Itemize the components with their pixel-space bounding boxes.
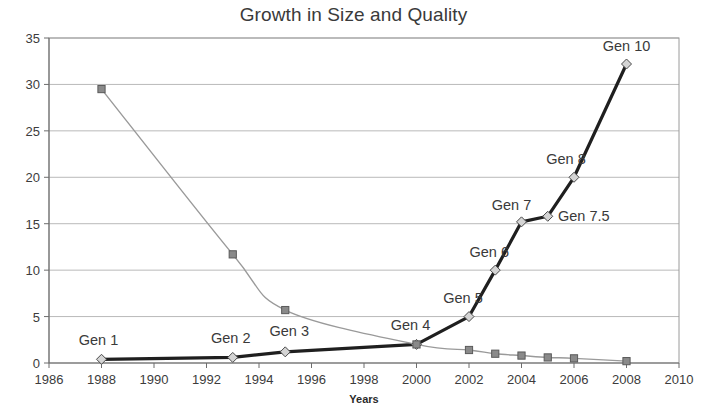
point-label: Gen 6 <box>470 244 510 260</box>
chart-container: Growth in Size and Quality 1986198819901… <box>0 0 707 420</box>
data-point-marker <box>570 355 577 362</box>
point-label: Gen 7 <box>492 197 532 213</box>
plot-frame-group <box>49 38 679 363</box>
x-axis-tick-label: 1990 <box>140 372 169 387</box>
x-axis-group: 1986198819901992199419961998200020022004… <box>35 363 694 387</box>
series-line-1 <box>102 89 627 361</box>
y-axis-tick-label: 20 <box>26 170 40 185</box>
x-axis-title: Years <box>349 393 378 405</box>
x-axis-tick-label: 1998 <box>350 372 379 387</box>
x-axis-tick-label: 1988 <box>87 372 116 387</box>
x-axis-tick-label: 2010 <box>665 372 694 387</box>
data-point-marker <box>492 350 499 357</box>
x-axis-tick-label: 2000 <box>402 372 431 387</box>
data-point-marker <box>623 358 630 365</box>
gridlines-group <box>49 38 679 317</box>
y-axis-tick-label: 5 <box>33 310 40 325</box>
point-label: Gen 10 <box>603 38 651 54</box>
chart-canvas: 1986198819901992199419961998200020022004… <box>0 0 707 420</box>
x-axis-tick-label: 1996 <box>297 372 326 387</box>
data-point-marker <box>228 352 238 362</box>
y-axis-tick-label: 30 <box>26 77 40 92</box>
point-label: Gen 5 <box>443 290 483 306</box>
plot-frame <box>49 38 679 363</box>
x-axis-tick-label: 1986 <box>35 372 64 387</box>
x-axis-tick-label: 1992 <box>192 372 221 387</box>
point-label: Gen 8 <box>546 151 586 167</box>
data-point-marker <box>544 354 551 361</box>
x-axis-tick-label: 2002 <box>455 372 484 387</box>
y-axis-tick-label: 0 <box>33 356 40 371</box>
y-axis-tick-label: 25 <box>26 124 40 139</box>
y-axis-tick-label: 15 <box>26 217 40 232</box>
data-point-marker <box>518 352 525 359</box>
y-axis-tick-label: 35 <box>26 31 40 46</box>
x-axis-tick-label: 1994 <box>245 372 274 387</box>
y-axis-tick-label: 10 <box>26 263 40 278</box>
data-point-marker <box>229 251 236 258</box>
point-label: Gen 2 <box>211 330 251 346</box>
axis-titles-group: Years <box>349 393 378 405</box>
point-label: Gen 3 <box>270 323 310 339</box>
point-label: Gen 7.5 <box>558 208 610 224</box>
data-point-marker <box>98 85 105 92</box>
data-point-marker <box>622 59 632 69</box>
data-point-marker <box>413 341 420 348</box>
data-point-marker <box>282 306 289 313</box>
y-axis-group: 05101520253035 <box>26 31 49 371</box>
x-axis-tick-label: 2004 <box>507 372 536 387</box>
point-label: Gen 4 <box>391 317 431 333</box>
x-axis-tick-label: 2006 <box>560 372 589 387</box>
point-label: Gen 1 <box>79 332 119 348</box>
x-axis-tick-label: 2008 <box>612 372 641 387</box>
data-point-marker <box>465 346 472 353</box>
data-point-marker <box>280 347 290 357</box>
